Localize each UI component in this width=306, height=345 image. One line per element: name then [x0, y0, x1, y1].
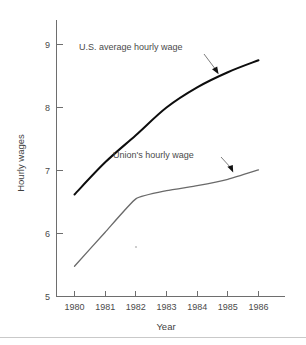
annotation-label-us-average: U.S. average hourly wage: [79, 42, 183, 52]
y-tick-label-7: 7: [45, 166, 50, 176]
x-axis-title: Year: [156, 321, 175, 332]
bottom-divider: [0, 337, 306, 338]
annotation-arrowhead-union: [227, 165, 233, 173]
y-tick-label-9: 9: [45, 40, 50, 50]
x-tick-label-1984: 1984: [187, 302, 207, 312]
x-tick-label-1983: 1983: [156, 302, 176, 312]
y-tick-label-6: 6: [45, 229, 50, 239]
annotation-arrowhead-us-average: [212, 67, 219, 75]
y-axis-title: Hourly wages: [15, 134, 26, 192]
series-line-us-average-hourly-wage: [75, 60, 259, 194]
annotation-label-union: Union's hourly wage: [113, 150, 194, 160]
y-tick-label-5: 5: [45, 292, 50, 302]
y-tick-marks: [57, 45, 63, 234]
x-tick-label-1980: 1980: [64, 302, 84, 312]
hourly-wages-line-chart: 9 8 7 6 5 1980 1981 1982 1983 1984 1985 …: [0, 0, 306, 345]
annotation-leader-us-average: [204, 54, 216, 70]
series-line-union-hourly-wage: [75, 170, 259, 266]
chart-figure: 9 8 7 6 5 1980 1981 1982 1983 1984 1985 …: [0, 0, 306, 345]
x-tick-label-1985: 1985: [218, 302, 238, 312]
scan-speck: [135, 246, 137, 248]
x-tick-label-1982: 1982: [126, 302, 146, 312]
x-tick-label-1986: 1986: [248, 302, 268, 312]
y-tick-label-8: 8: [45, 103, 50, 113]
x-tick-label-1981: 1981: [95, 302, 115, 312]
x-tick-marks: [75, 291, 259, 297]
